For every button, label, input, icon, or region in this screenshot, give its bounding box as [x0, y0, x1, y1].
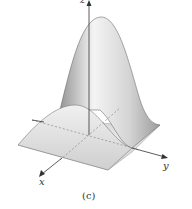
y-axis-arrow	[161, 154, 168, 159]
figure: z y x (c)	[0, 0, 192, 209]
x-axis	[42, 158, 62, 174]
figure-caption: (c)	[82, 190, 95, 201]
surface-plot	[0, 0, 192, 209]
z-axis-label: z	[80, 0, 85, 5]
y-axis	[132, 148, 165, 157]
z-axis-arrow	[87, 0, 92, 6]
x-axis-label: x	[39, 176, 45, 187]
y-axis-label: y	[163, 160, 169, 171]
